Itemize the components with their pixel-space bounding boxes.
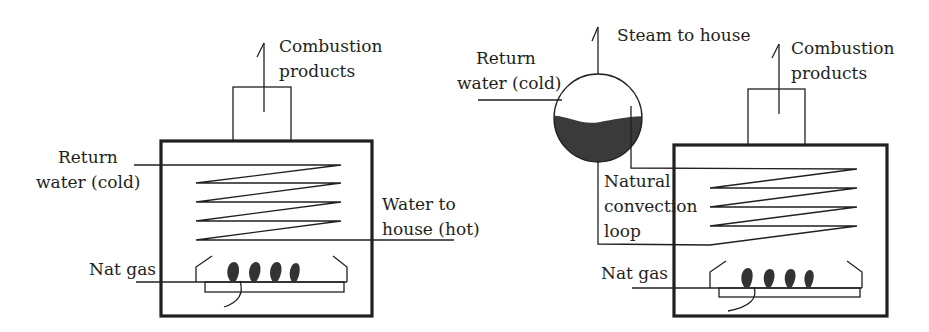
left-chimney xyxy=(233,87,291,141)
boiler-diagram: Combustion products Return water (cold) … xyxy=(0,0,929,332)
steam-arrow-icon xyxy=(592,27,598,74)
left-outlet-label-2: house (hot) xyxy=(382,219,480,239)
left-combustion-label-1: Combustion xyxy=(279,36,382,56)
hot-water-boiler: Combustion products Return water (cold) … xyxy=(36,36,480,316)
left-flames-icon xyxy=(227,262,299,282)
loop-label-3: loop xyxy=(604,221,641,241)
steam-boiler: Steam to house Return water (cold) Combu… xyxy=(457,25,894,316)
left-return-label-1: Return xyxy=(58,147,118,167)
left-return-label-2: water (cold) xyxy=(36,172,140,192)
left-exhaust-arrow-icon xyxy=(257,43,264,112)
right-gas-label: Nat gas xyxy=(601,263,668,283)
loop-label-1: Natural xyxy=(604,171,671,191)
right-exhaust-arrow-icon xyxy=(772,44,779,114)
left-gas-label: Nat gas xyxy=(89,259,156,279)
left-boiler-casing xyxy=(161,141,372,316)
steam-label: Steam to house xyxy=(617,25,751,45)
right-chimney xyxy=(748,89,805,145)
right-return-label-2: water (cold) xyxy=(457,73,561,93)
loop-label-2: convection xyxy=(604,196,697,216)
right-combustion-label-1: Combustion xyxy=(791,38,894,58)
right-return-label-1: Return xyxy=(476,48,536,68)
left-outlet-label-1: Water to xyxy=(382,194,456,214)
right-boiler-casing xyxy=(674,145,887,316)
left-combustion-label-2: products xyxy=(279,61,355,81)
left-burner xyxy=(136,256,347,307)
right-combustion-label-2: products xyxy=(791,63,867,83)
right-flames-icon xyxy=(741,268,813,288)
